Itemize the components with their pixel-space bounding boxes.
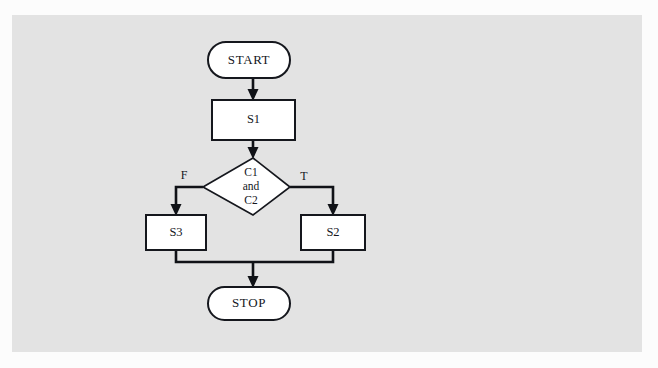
node-decision-label-line2: and <box>243 180 260 192</box>
edge-s2-to-merge <box>253 250 333 262</box>
node-s3[interactable]: S3 <box>146 215 206 250</box>
node-s2[interactable]: S2 <box>301 215 365 250</box>
node-s1-label: S1 <box>247 112 260 126</box>
node-stop[interactable]: STOP <box>208 287 290 320</box>
branch-label-false: F <box>181 168 188 182</box>
node-decision[interactable]: C1 and C2 <box>203 158 290 215</box>
edge-decision-to-s3 <box>171 187 204 216</box>
node-s3-label: S3 <box>169 225 182 239</box>
edge-decision-to-s2 <box>290 187 339 216</box>
node-s1[interactable]: S1 <box>212 100 295 140</box>
node-start-label: START <box>228 52 270 67</box>
node-decision-label-line1: C1 <box>244 166 258 178</box>
edge-start-to-s1 <box>248 78 259 101</box>
diagram-canvas: START S1 C1 and C2 F T S3 S2 <box>0 0 658 368</box>
edge-merge-to-stop <box>248 262 259 288</box>
node-start[interactable]: START <box>208 42 290 78</box>
node-decision-label-line3: C2 <box>244 194 258 206</box>
edge-s1-to-decision <box>248 140 259 159</box>
edge-s3-to-merge <box>176 250 253 262</box>
branch-label-true: T <box>300 169 308 183</box>
node-stop-label: STOP <box>232 295 266 310</box>
node-s2-label: S2 <box>326 225 339 239</box>
flowchart-graphic: START S1 C1 and C2 F T S3 S2 <box>0 0 658 368</box>
